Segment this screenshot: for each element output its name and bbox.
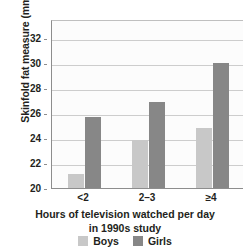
plot-area [51,20,243,189]
bar-boys-2 [196,128,212,188]
y-tick-mark [44,189,47,190]
y-tick-label: 22 [30,159,41,169]
y-tick-mark [44,114,47,115]
x-tick-label: <2 [77,192,88,203]
y-tick-label: 32 [30,34,41,44]
bar-boys-0 [68,174,84,188]
y-tick-mark [44,139,47,140]
y-tick-label: 28 [30,84,41,94]
y-tick-label: 30 [30,59,41,69]
y-tick-mark [44,89,47,90]
bar-girls-2 [213,63,229,188]
x-axis-tick-labels: <22–3≥4 [51,192,243,208]
chart-figure: Skinfold fat measure (mm) 20222426283032… [0,0,250,251]
bar-girls-1 [149,102,165,188]
y-tick-mark [44,64,47,65]
x-tick-label: 2–3 [139,192,156,203]
legend-item-boys: Boys [78,236,119,247]
x-tick-label: ≥4 [205,192,216,203]
x-axis-title-line2: in 1990s study [0,221,250,235]
y-tick-mark [44,39,47,40]
y-tick-label: 24 [30,134,41,144]
y-axis-tick-labels: 20222426283032 [0,20,47,189]
x-axis-title-line1: Hours of television watched per day [0,207,250,221]
chart-legend: BoysGirls [0,236,250,247]
bar-girls-0 [85,117,101,188]
y-tick-label: 20 [30,184,41,194]
legend-item-girls: Girls [133,236,172,247]
y-tick-label: 26 [30,109,41,119]
legend-swatch-girls [133,236,143,246]
legend-label: Boys [93,236,119,247]
bar-boys-1 [132,140,148,188]
legend-swatch-boys [78,236,88,246]
bar-series-container [52,21,243,188]
y-tick-mark [44,164,47,165]
legend-label: Girls [148,236,172,247]
x-axis-title: Hours of television watched per day in 1… [0,207,250,235]
